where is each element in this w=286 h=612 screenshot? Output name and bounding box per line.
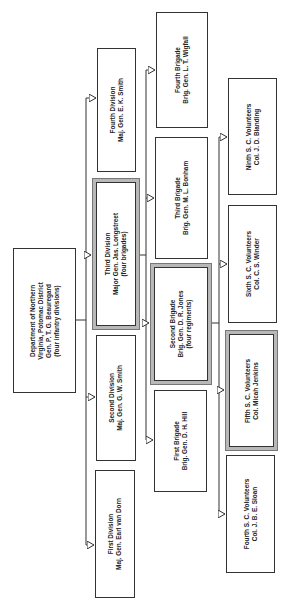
node-label: Second Division Maj. Gen. G. W. Smith: [108, 365, 124, 431]
node-fourth-division: Fourth Division Maj. Gen. E. K. Smith: [97, 48, 136, 172]
node-line: (four regiments): [185, 290, 193, 357]
node-fifth-sc-volunteers: Fifth S. C. Volunteers Col. Micah Jenkin…: [229, 334, 274, 447]
node-sixth-sc-volunteers: Sixth S. C. Volunteers Col. C. S. Winder: [228, 205, 277, 323]
node-line: First Brigade: [173, 412, 181, 471]
node-second-brigade: Second Brigade Brig. Gen. D. R. Jones (f…: [154, 267, 208, 381]
node-label: First Brigade Brig. Gen. D. H. Hill: [173, 412, 189, 471]
node-line: Sixth S. C. Volunteers: [245, 231, 253, 297]
node-line: Gen. P. T. G. Beauregard: [45, 282, 53, 360]
node-second-division: Second Division Maj. Gen. G. W. Smith: [96, 335, 136, 461]
node-line: First Division: [107, 498, 115, 570]
node-third-brigade: Third Brigade Brig. Gen. M. L. Bonham: [155, 137, 208, 259]
node-line: Fourth Brigade: [174, 36, 182, 103]
node-line: Maj. Gen. E. K. Smith: [117, 78, 125, 142]
node-first-division: First Division Maj. Gen. Earl van Dorn: [95, 470, 135, 598]
node-line: Department of Northern: [29, 282, 37, 360]
node-line: Fourth S. C. Volunteers: [243, 479, 251, 550]
node-line: Ninth S. C. Volunteers: [245, 103, 253, 170]
node-line: Brig. Gen. L. T. Wigfall: [182, 36, 190, 103]
node-line: Virginia, Potomac District: [37, 282, 45, 360]
node-label: Department of Northern Virginia, Potomac…: [29, 282, 61, 360]
node-line: Col. J. B. E. Sloan: [251, 479, 259, 550]
node-fourth-sc-volunteers: Fourth S. C. Volunteers Col. J. B. E. Sl…: [226, 455, 275, 573]
node-line: Brig. Gen. M. L. Bonham: [182, 161, 190, 235]
node-line: (four infantry divisions): [53, 282, 61, 360]
node-line: Second Division: [108, 365, 116, 431]
node-line: Fourth Division: [109, 78, 117, 142]
node-department: Department of Northern Virginia, Potomac…: [13, 248, 76, 393]
node-line: Second Brigade: [169, 290, 177, 357]
node-label: Third Division Major Gen. Jas. Longstree…: [104, 213, 128, 295]
node-fourth-brigade: Fourth Brigade Brig. Gen. L. T. Wigfall: [156, 12, 208, 128]
node-line: Third Division: [104, 213, 112, 295]
node-label: Fourth Division Maj. Gen. E. K. Smith: [109, 78, 125, 142]
node-line: Third Brigade: [174, 161, 182, 235]
org-chart: Department of Northern Virginia, Potomac…: [0, 0, 286, 612]
node-first-brigade: First Brigade Brig. Gen. D. H. Hill: [154, 390, 207, 492]
node-label: Fourth Brigade Brig. Gen. L. T. Wigfall: [174, 36, 190, 103]
node-third-division: Third Division Major Gen. Jas. Longstree…: [96, 182, 136, 326]
node-label: Fifth S. C. Volunteers Col. Micah Jenkin…: [244, 358, 260, 422]
node-line: Col. Micah Jenkins: [252, 358, 260, 422]
node-line: Major Gen. Jas. Longstreet: [112, 213, 120, 295]
node-line: Brig. Gen. D. H. Hill: [181, 412, 189, 471]
node-label: Third Brigade Brig. Gen. M. L. Bonham: [174, 161, 190, 235]
node-ninth-sc-volunteers: Ninth S. C. Volunteers Col. J. D. Blandi…: [228, 78, 277, 195]
node-line: Col. J. D. Blanding: [253, 103, 261, 170]
node-label: First Division Maj. Gen. Earl van Dorn: [107, 498, 123, 570]
node-label: Fourth S. C. Volunteers Col. J. B. E. Sl…: [243, 479, 259, 550]
node-label: Ninth S. C. Volunteers Col. J. D. Blandi…: [245, 103, 261, 170]
node-label: Second Brigade Brig. Gen. D. R. Jones (f…: [169, 290, 193, 357]
node-line: Maj. Gen. G. W. Smith: [116, 365, 124, 431]
node-line: Fifth S. C. Volunteers: [244, 358, 252, 422]
node-label: Sixth S. C. Volunteers Col. C. S. Winder: [245, 231, 261, 297]
node-line: Brig. Gen. D. R. Jones: [177, 290, 185, 357]
node-line: Col. C. S. Winder: [253, 231, 261, 297]
node-line: Maj. Gen. Earl van Dorn: [115, 498, 123, 570]
node-line: (four brigades): [120, 213, 128, 295]
